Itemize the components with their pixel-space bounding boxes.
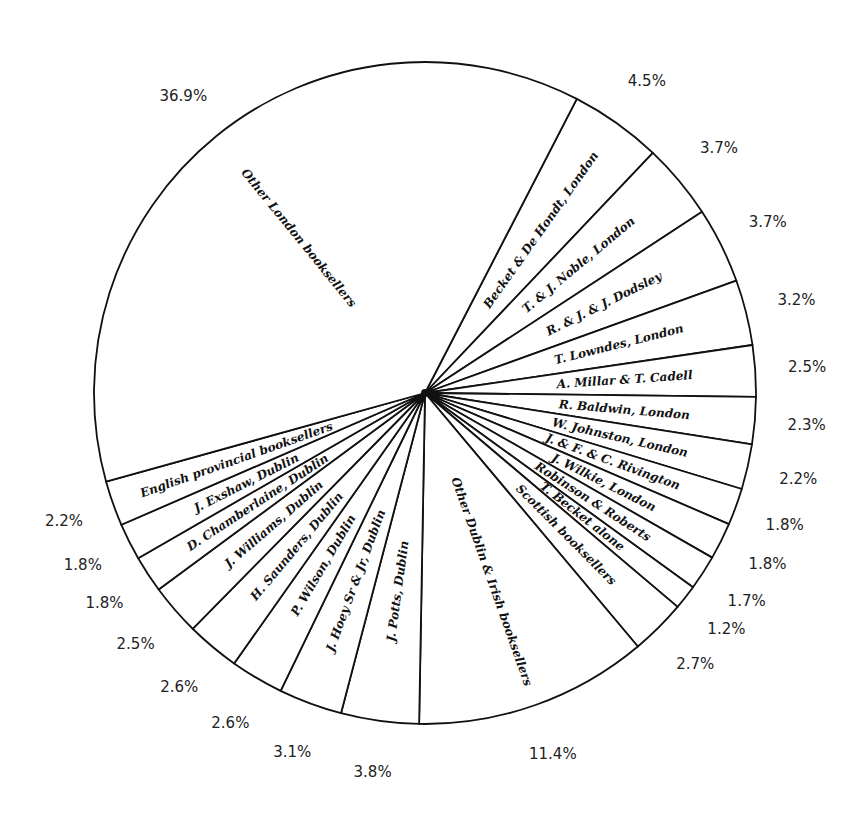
percentage-label: 1.8% xyxy=(64,556,102,574)
percentage-label: 3.2% xyxy=(777,291,815,309)
pie-chart-canvas: Becket & De Hondt, LondonT. & J. Noble, … xyxy=(0,0,868,816)
percentage-label: 1.7% xyxy=(728,592,766,610)
percentage-label: 2.7% xyxy=(676,655,714,673)
pie-chart: Becket & De Hondt, LondonT. & J. Noble, … xyxy=(0,0,868,816)
percentage-label: 2.2% xyxy=(45,512,83,530)
percentage-label: 3.7% xyxy=(700,139,738,157)
percentage-label: 3.1% xyxy=(273,743,311,761)
percentage-label: 36.9% xyxy=(160,87,208,105)
percentage-label: 2.2% xyxy=(779,470,817,488)
percentage-label: 2.6% xyxy=(160,678,198,696)
percentage-label: 2.6% xyxy=(211,714,249,732)
percentage-label: 1.8% xyxy=(766,516,804,534)
pie-center-hub xyxy=(421,389,429,397)
percentage-label: 4.5% xyxy=(628,72,666,90)
percentage-label: 1.2% xyxy=(707,620,745,638)
percentage-label: 2.5% xyxy=(788,358,826,376)
percentage-label: 3.7% xyxy=(749,213,787,231)
percentage-label: 2.3% xyxy=(788,416,826,434)
percentage-label: 1.8% xyxy=(85,594,123,612)
percentage-label: 2.5% xyxy=(117,635,155,653)
percentage-label: 3.8% xyxy=(354,763,392,781)
percentage-label: 11.4% xyxy=(529,745,577,763)
percentage-label: 1.8% xyxy=(748,555,786,573)
